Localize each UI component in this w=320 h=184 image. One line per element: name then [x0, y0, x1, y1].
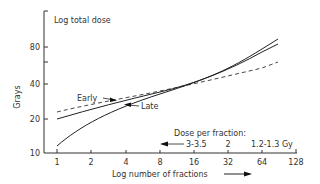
x-axis-label: Log number of fractions: [112, 170, 208, 179]
early-curve: [57, 44, 278, 119]
early-dashed-curve: [57, 62, 278, 112]
x-tick-1: 1: [54, 158, 59, 167]
y-tick-10: 10: [30, 149, 40, 158]
y-tick-20: 20: [30, 115, 40, 124]
y-tick-40: 40: [30, 80, 40, 89]
early-label: Early: [77, 94, 97, 103]
x-tick-32: 32: [223, 158, 233, 167]
chart-title: Log total dose: [54, 16, 111, 25]
dose-high-label: 3-3.5: [186, 140, 207, 149]
x-tick-4: 4: [123, 158, 128, 167]
y-tick-80: 80: [30, 43, 40, 52]
y-axis: [44, 11, 48, 153]
late-label: Late: [141, 102, 158, 111]
x-axis-arrow-icon: [224, 172, 252, 177]
dose-per-fraction-header: Dose per fraction:: [174, 129, 246, 138]
x-tick-128: 128: [288, 158, 303, 167]
x-tick-2: 2: [88, 158, 93, 167]
x-tick-64: 64: [257, 158, 267, 167]
x-tick-8: 8: [157, 158, 162, 167]
x-tick-16: 16: [189, 158, 199, 167]
dose-mid-label: 2: [225, 140, 230, 149]
dose-low-label: 1.2-1.3 Gy: [251, 140, 293, 149]
x-axis: [44, 149, 297, 153]
dose-arrow-icon: [160, 142, 184, 147]
chart-svg: 80 40 20 10 1 2 4 8 16 32 64 128 Log tot…: [0, 0, 320, 184]
y-axis-label: Grays: [13, 85, 22, 108]
